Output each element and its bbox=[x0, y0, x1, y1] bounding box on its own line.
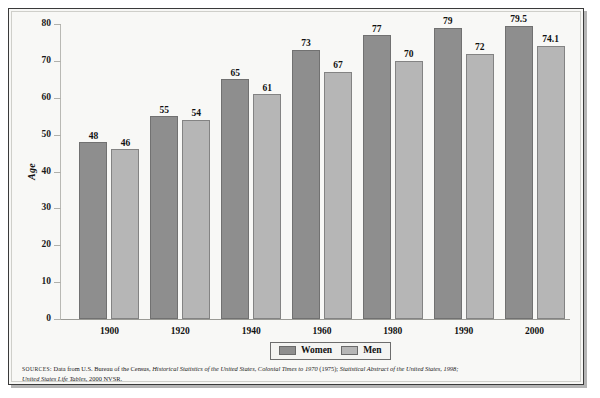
y-tick-label: 40 bbox=[42, 167, 52, 177]
y-tick-label: 30 bbox=[42, 204, 52, 214]
source-italic-2: Statistical Abstract of the United State… bbox=[340, 365, 459, 372]
bar-value-label: 70 bbox=[404, 50, 414, 60]
bar-value-label: 54 bbox=[192, 109, 202, 119]
y-tick-label: 0 bbox=[46, 314, 51, 324]
y-tick: 40 bbox=[60, 172, 61, 173]
y-tick: 30 bbox=[60, 208, 61, 209]
y-tick-mark bbox=[54, 245, 61, 246]
bar-group: 79.574.12000 bbox=[505, 23, 565, 319]
y-tick-mark bbox=[54, 135, 61, 136]
y-tick-mark bbox=[54, 319, 61, 320]
y-tick-label: 10 bbox=[42, 277, 52, 287]
source-note: sources: Data from U.S. Bureau of the Ce… bbox=[22, 364, 582, 384]
y-tick-mark bbox=[54, 282, 61, 283]
bar-value-label: 79.5 bbox=[510, 15, 527, 25]
bar-value-label: 65 bbox=[230, 69, 240, 79]
chart-figure-frame: Age 01020304050607080 484619005554192065… bbox=[8, 8, 584, 385]
legend-label: Women bbox=[301, 346, 332, 356]
bar-value-label: 46 bbox=[121, 139, 131, 149]
y-tick: 80 bbox=[60, 24, 61, 25]
bar-men-1960[interactable]: 67 bbox=[324, 72, 352, 319]
bar-group: 77701980 bbox=[363, 23, 423, 319]
bar-men-2000[interactable]: 74.1 bbox=[537, 46, 565, 319]
chart-inner-frame: Age 01020304050607080 484619005554192065… bbox=[11, 11, 581, 382]
y-tick: 70 bbox=[60, 61, 61, 62]
bar-women-1960[interactable]: 73 bbox=[292, 50, 320, 319]
legend-item-women[interactable]: Women bbox=[279, 346, 332, 356]
y-tick-label: 20 bbox=[42, 241, 52, 251]
bar-value-label: 72 bbox=[475, 43, 485, 53]
bar-women-2000[interactable]: 79.5 bbox=[505, 26, 533, 319]
source-prefix: sources: bbox=[22, 366, 52, 372]
bar-value-label: 74.1 bbox=[542, 35, 559, 45]
bar-value-label: 73 bbox=[301, 39, 311, 49]
y-tick-mark bbox=[54, 98, 61, 99]
bar-value-label: 61 bbox=[262, 84, 272, 94]
x-tick-label-1940: 1940 bbox=[242, 326, 261, 336]
source-italic-1: Historical Statistics of the United Stat… bbox=[152, 365, 317, 372]
x-tick-label-1900: 1900 bbox=[100, 326, 119, 336]
y-tick: 20 bbox=[60, 245, 61, 246]
bar-group: 65611940 bbox=[221, 23, 281, 319]
y-tick: 50 bbox=[60, 135, 61, 136]
source-text-3: 2000 NVSR. bbox=[89, 375, 122, 382]
x-tick-label-1990: 1990 bbox=[454, 326, 473, 336]
x-axis-line bbox=[60, 319, 570, 320]
bar-group: 48461900 bbox=[79, 23, 139, 319]
y-axis-label: Age bbox=[26, 163, 37, 180]
chart-legend: WomenMen bbox=[270, 342, 391, 360]
bar-value-label: 67 bbox=[333, 61, 343, 71]
source-italic-3: United States Life Tables, bbox=[22, 375, 87, 382]
y-tick: 10 bbox=[60, 282, 61, 283]
y-tick-label: 70 bbox=[42, 56, 52, 66]
y-tick-mark bbox=[54, 61, 61, 62]
y-tick-mark bbox=[54, 24, 61, 25]
bar-group: 79721990 bbox=[434, 23, 494, 319]
bar-men-1980[interactable]: 70 bbox=[395, 61, 423, 319]
y-tick-label: 50 bbox=[42, 130, 52, 140]
bar-women-1900[interactable]: 48 bbox=[79, 142, 107, 319]
bar-men-1900[interactable]: 46 bbox=[111, 149, 139, 319]
bar-men-1990[interactable]: 72 bbox=[466, 54, 494, 320]
bar-value-label: 77 bbox=[372, 25, 382, 35]
legend-label: Men bbox=[363, 346, 381, 356]
bar-women-1920[interactable]: 55 bbox=[150, 116, 178, 319]
bar-women-1990[interactable]: 79 bbox=[434, 28, 462, 319]
x-tick-label-1980: 1980 bbox=[383, 326, 402, 336]
y-tick: 60 bbox=[60, 98, 61, 99]
legend-swatch-women bbox=[279, 346, 296, 355]
y-tick-label: 60 bbox=[42, 93, 52, 103]
x-tick-label-1920: 1920 bbox=[171, 326, 190, 336]
y-tick: 0 bbox=[60, 319, 61, 320]
bar-value-label: 79 bbox=[443, 17, 453, 27]
y-tick-mark bbox=[54, 172, 61, 173]
plot-area: 01020304050607080 4846190055541920656119… bbox=[60, 24, 570, 320]
bar-group: 55541920 bbox=[150, 23, 210, 319]
legend-item-men[interactable]: Men bbox=[341, 346, 381, 356]
source-text-2: (1975); bbox=[319, 365, 338, 372]
legend-swatch-men bbox=[341, 346, 358, 355]
bar-women-1980[interactable]: 77 bbox=[363, 35, 391, 319]
x-tick-label-2000: 2000 bbox=[525, 326, 544, 336]
y-tick-mark bbox=[54, 208, 61, 209]
bar-value-label: 48 bbox=[89, 132, 99, 142]
bar-group: 73671960 bbox=[292, 23, 352, 319]
bar-value-label: 55 bbox=[160, 106, 170, 116]
bar-men-1920[interactable]: 54 bbox=[182, 120, 210, 319]
bar-women-1940[interactable]: 65 bbox=[221, 79, 249, 319]
bar-men-1940[interactable]: 61 bbox=[253, 94, 281, 319]
y-tick-label: 80 bbox=[42, 19, 52, 29]
source-text-1: Data from U.S. Bureau of the Census, bbox=[54, 365, 151, 372]
x-tick-label-1960: 1960 bbox=[313, 326, 332, 336]
